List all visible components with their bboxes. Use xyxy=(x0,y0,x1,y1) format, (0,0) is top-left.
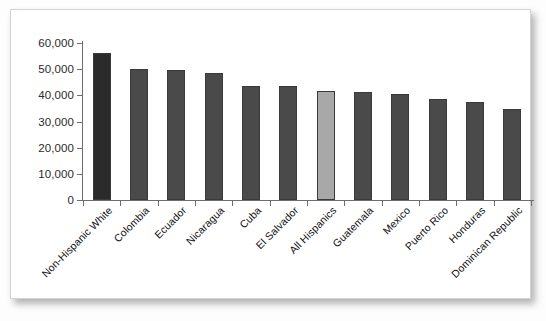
x-axis-labels: Non-Hispanic WhiteColombiaEcuadorNicarag… xyxy=(11,10,546,321)
chart-panel: 60,00050,00040,00030,00020,00010,0000 No… xyxy=(10,9,531,299)
chart-figure: 60,00050,00040,00030,00020,00010,0000 No… xyxy=(0,0,546,321)
x-axis-category-label: Nicaragua xyxy=(183,204,226,247)
x-axis-category-label: Colombia xyxy=(111,204,151,244)
x-axis-category-label: Dominican Republic xyxy=(449,204,525,280)
x-axis-category-label: Mexico xyxy=(380,204,412,236)
x-axis-category-label: Cuba xyxy=(237,204,264,231)
x-axis-category-label: Non-Hispanic White xyxy=(39,204,114,279)
x-axis-category-label: Ecuador xyxy=(152,204,189,241)
